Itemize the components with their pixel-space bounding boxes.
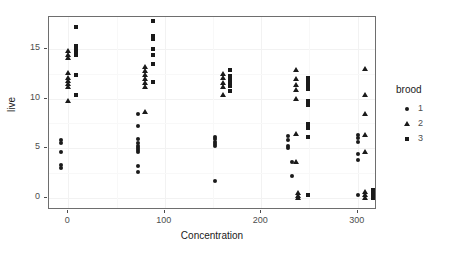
x-tick-label: 300	[337, 216, 377, 225]
data-point-brood-3	[151, 37, 155, 41]
data-point-brood-1	[286, 146, 290, 150]
x-tick-label: 0	[47, 216, 87, 225]
scatter-plot-figure: live Concentration 0510150100200300 broo…	[0, 0, 462, 256]
data-point-brood-3	[306, 103, 310, 107]
x-axis-title: Concentration	[48, 230, 376, 241]
data-point-brood-3	[74, 93, 78, 97]
data-point-brood-1	[356, 158, 360, 162]
data-point-brood-1	[286, 138, 290, 142]
y-tick-label: 0	[14, 192, 40, 201]
data-point-brood-2	[362, 111, 368, 116]
data-point-brood-3	[151, 53, 155, 57]
gridline-horizontal	[49, 99, 375, 100]
data-point-brood-2	[65, 98, 71, 103]
legend-key-square-icon	[400, 132, 414, 146]
legend-label: 1	[418, 104, 423, 113]
plot-panel	[48, 16, 376, 209]
data-point-brood-2	[295, 195, 301, 200]
data-point-brood-3	[228, 89, 232, 93]
triangle-icon	[404, 121, 410, 126]
data-point-brood-1	[136, 164, 140, 168]
data-point-brood-3	[151, 80, 155, 84]
data-point-brood-3	[306, 126, 310, 130]
data-point-brood-1	[59, 141, 63, 145]
y-tick-mark	[44, 48, 47, 49]
circle-icon	[405, 107, 409, 111]
x-tick-mark	[260, 210, 261, 213]
data-point-brood-2	[65, 84, 71, 89]
data-point-brood-2	[362, 92, 368, 97]
gridline-vertical	[68, 17, 69, 208]
legend-key-triangle-icon	[400, 117, 414, 131]
data-point-brood-3	[74, 53, 78, 57]
data-point-brood-2	[362, 149, 368, 154]
gridline-horizontal	[49, 198, 375, 199]
y-tick-mark	[44, 98, 47, 99]
data-point-brood-2	[293, 131, 299, 136]
legend-items: 123	[392, 101, 458, 146]
legend-key-circle-icon	[400, 102, 414, 116]
x-tick-label: 100	[144, 216, 184, 225]
y-tick-label: 5	[14, 142, 40, 151]
data-point-brood-3	[306, 135, 310, 139]
data-point-brood-2	[293, 87, 299, 92]
data-point-brood-2	[293, 67, 299, 72]
legend-label: 3	[418, 134, 423, 143]
y-tick-mark	[44, 197, 47, 198]
data-point-brood-2	[293, 159, 299, 164]
gridline-horizontal-minor	[49, 173, 375, 174]
x-tick-mark	[164, 210, 165, 213]
data-point-brood-3	[151, 62, 155, 66]
data-point-brood-3	[74, 73, 78, 77]
data-point-brood-2	[293, 76, 299, 81]
data-point-brood-3	[228, 84, 232, 88]
data-point-brood-1	[59, 150, 63, 154]
data-point-brood-3	[306, 193, 310, 197]
data-point-brood-1	[136, 112, 140, 116]
data-point-brood-3	[371, 196, 375, 200]
y-tick-label: 15	[14, 43, 40, 52]
legend-item-brood-2[interactable]: 2	[400, 116, 458, 131]
square-icon	[405, 137, 409, 141]
data-point-brood-1	[290, 174, 294, 178]
data-point-brood-1	[136, 150, 140, 154]
x-tick-label: 200	[240, 216, 280, 225]
x-tick-mark	[67, 210, 68, 213]
data-point-brood-3	[151, 19, 155, 23]
data-point-brood-2	[220, 92, 226, 97]
x-tick-mark	[357, 210, 358, 213]
chart-legend: brood 123	[392, 84, 458, 146]
data-point-brood-2	[362, 195, 368, 200]
gridline-horizontal	[49, 148, 375, 149]
data-point-brood-3	[151, 47, 155, 51]
data-point-brood-1	[213, 179, 217, 183]
gridline-horizontal-minor	[49, 123, 375, 124]
data-point-brood-2	[220, 84, 226, 89]
data-point-brood-1	[356, 152, 360, 156]
y-tick-label: 10	[14, 93, 40, 102]
legend-item-brood-1[interactable]: 1	[400, 101, 458, 116]
legend-title: brood	[396, 84, 458, 95]
gridline-vertical	[261, 17, 262, 208]
gridline-vertical-minor	[117, 17, 118, 208]
data-point-brood-2	[65, 55, 71, 60]
data-point-brood-3	[228, 68, 232, 72]
gridline-vertical	[165, 17, 166, 208]
gridline-vertical	[358, 17, 359, 208]
data-point-brood-2	[293, 96, 299, 101]
data-point-brood-1	[136, 170, 140, 174]
y-tick-mark	[44, 147, 47, 148]
gridline-horizontal-minor	[49, 74, 375, 75]
data-point-brood-3	[306, 87, 310, 91]
gridline-horizontal	[49, 49, 375, 50]
data-point-brood-1	[356, 140, 360, 144]
data-point-brood-2	[142, 84, 148, 89]
legend-item-brood-3[interactable]: 3	[400, 131, 458, 146]
data-point-brood-2	[362, 66, 368, 71]
data-point-brood-3	[74, 25, 78, 29]
data-point-brood-2	[362, 132, 368, 137]
data-point-brood-1	[356, 193, 360, 197]
data-point-brood-1	[136, 124, 140, 128]
data-point-brood-1	[59, 166, 63, 170]
legend-label: 2	[418, 119, 423, 128]
